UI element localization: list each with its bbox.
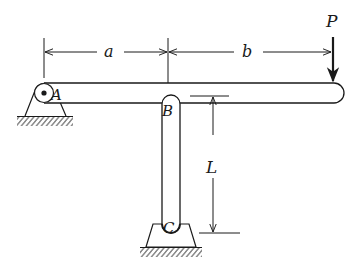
ground-hatch-c [140,248,202,257]
pin-c-label: C [163,219,175,237]
pin-b-label: B [161,102,173,120]
pin-a-label: A [49,86,62,104]
dim-a-label: a [104,42,114,61]
dimension-ab [44,38,331,90]
load-label: P [325,11,338,31]
horizontal-beam [44,83,344,103]
ground-hatch-a [17,117,73,126]
dim-b-label: b [242,42,252,61]
beam-diagram: a b P A B C L [0,0,356,271]
dim-L-label: L [205,157,217,177]
pin-a-dot [41,90,46,95]
